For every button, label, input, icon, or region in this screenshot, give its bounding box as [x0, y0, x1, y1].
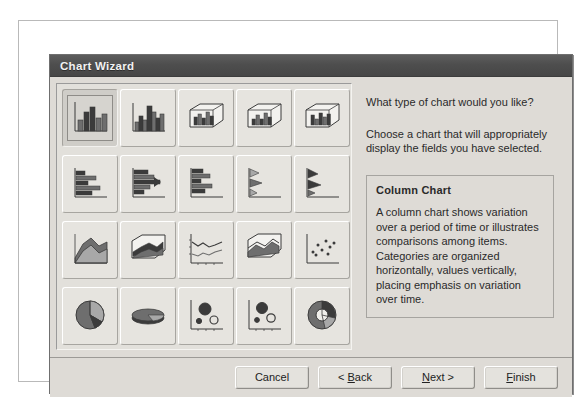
chart-wizard-dialog: Chart Wizard What type of chart would yo…	[49, 54, 573, 394]
chart-type-button-doughnut-chart[interactable]	[294, 287, 350, 345]
column-chart-3d-clustered-icon	[299, 95, 345, 141]
screenshot-canvas: Chart Wizard What type of chart would yo…	[0, 0, 584, 405]
chart-description-text: A column chart shows variation over a pe…	[376, 205, 544, 307]
chart-type-button-bar-chart[interactable]	[62, 155, 118, 213]
chart-type-button-line-chart[interactable]	[178, 221, 234, 279]
next-button-label: Next >	[422, 371, 454, 383]
cancel-button[interactable]: Cancel	[235, 366, 309, 389]
chart-type-gallery-panel	[56, 83, 352, 350]
chart-type-button-column-chart[interactable]	[62, 89, 118, 147]
chart-description-box: Column Chart A column chart shows variat…	[366, 175, 554, 318]
bar-chart-icon	[67, 161, 113, 207]
scatter-chart-icon	[299, 227, 345, 273]
line-chart-icon	[183, 227, 229, 273]
finish-button-label: Finish	[506, 371, 535, 383]
chart-type-button-bubble-chart-2[interactable]	[236, 287, 292, 345]
bar-chart-stacked-icon	[125, 161, 171, 207]
dialog-footer: Cancel < Back Next > Finish	[50, 357, 572, 397]
back-button-label: < Back	[338, 371, 372, 383]
chart-type-button-pie-chart-3d[interactable]	[120, 287, 176, 345]
chart-type-button-area-chart[interactable]	[62, 221, 118, 279]
chart-type-button-column-chart-3d[interactable]	[120, 89, 176, 147]
scan-frame: Chart Wizard What type of chart would yo…	[18, 20, 558, 382]
prompt-help-text: Choose a chart that will appropriately d…	[366, 127, 554, 155]
dialog-title: Chart Wizard	[60, 60, 134, 72]
back-button[interactable]: < Back	[318, 366, 392, 389]
pie-chart-3d-icon	[125, 293, 171, 339]
area-chart-3d-icon	[125, 227, 171, 273]
chart-type-button-column-chart-3d-stacked[interactable]	[236, 89, 292, 147]
pie-chart-icon	[67, 293, 113, 339]
area-chart-icon	[67, 227, 113, 273]
area-chart-3d-perspective-icon	[241, 227, 287, 273]
chart-type-button-pie-chart[interactable]	[62, 287, 118, 345]
chart-type-button-area-chart-3d-perspective[interactable]	[236, 221, 292, 279]
chart-type-button-bar-chart-3d[interactable]	[236, 155, 292, 213]
bubble-chart-2-icon	[241, 293, 287, 339]
chart-type-button-column-chart-3d-clustered[interactable]	[294, 89, 350, 147]
bubble-chart-icon	[183, 293, 229, 339]
bar-chart-clustered-icon	[183, 161, 229, 207]
finish-button[interactable]: Finish	[484, 366, 558, 389]
chart-type-button-bar-chart-stacked[interactable]	[120, 155, 176, 213]
chart-type-button-bar-chart-cone[interactable]	[294, 155, 350, 213]
next-button[interactable]: Next >	[401, 366, 475, 389]
doughnut-chart-icon	[299, 293, 345, 339]
dialog-titlebar: Chart Wizard	[50, 55, 572, 77]
chart-description-title: Column Chart	[376, 184, 544, 196]
column-chart-3d-perspective-icon	[183, 95, 229, 141]
dialog-body: What type of chart would you like? Choos…	[50, 77, 572, 397]
column-chart-icon	[67, 95, 113, 141]
chart-type-button-bubble-chart[interactable]	[178, 287, 234, 345]
column-chart-3d-icon	[125, 95, 171, 141]
chart-type-button-bar-chart-clustered[interactable]	[178, 155, 234, 213]
bar-chart-cone-icon	[299, 161, 345, 207]
dialog-content: What type of chart would you like? Choos…	[50, 77, 572, 350]
wizard-right-pane: What type of chart would you like? Choos…	[352, 83, 564, 350]
chart-type-grid	[62, 89, 347, 345]
bar-chart-3d-icon	[241, 161, 287, 207]
chart-type-button-scatter-chart[interactable]	[294, 221, 350, 279]
chart-type-button-column-chart-3d-perspective[interactable]	[178, 89, 234, 147]
chart-type-button-area-chart-3d[interactable]	[120, 221, 176, 279]
column-chart-3d-stacked-icon	[241, 95, 287, 141]
prompt-question: What type of chart would you like?	[366, 95, 554, 109]
